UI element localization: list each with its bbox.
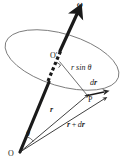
- rotation-axis-upper-segment: [60, 14, 77, 52]
- r-plus-dr-second-r: r: [82, 120, 85, 129]
- rotation-axis-lower-segment: [20, 82, 49, 152]
- theta-label: θ: [26, 130, 30, 138]
- point-p-label: P: [88, 96, 92, 104]
- dr-vector-r: r: [94, 78, 97, 87]
- disc-ellipse: [0, 18, 126, 102]
- disc-ellipse-group: [0, 18, 126, 102]
- o-prime-label: O′: [50, 52, 58, 60]
- diagram-canvas: [0, 0, 127, 165]
- rotation-vector-diagram: ω O′ r sin θ dr P r r + dr θ O: [0, 0, 127, 165]
- omega-label: ω: [77, 1, 83, 9]
- r-sin-theta-label: r sin θ: [71, 64, 91, 72]
- r-vector-label: r: [50, 106, 53, 114]
- origin-label: O: [8, 150, 14, 158]
- right-angle-mark: [57, 62, 61, 67]
- r-plus-dr-label: r + dr: [67, 121, 85, 129]
- dr-label: dr: [90, 79, 97, 87]
